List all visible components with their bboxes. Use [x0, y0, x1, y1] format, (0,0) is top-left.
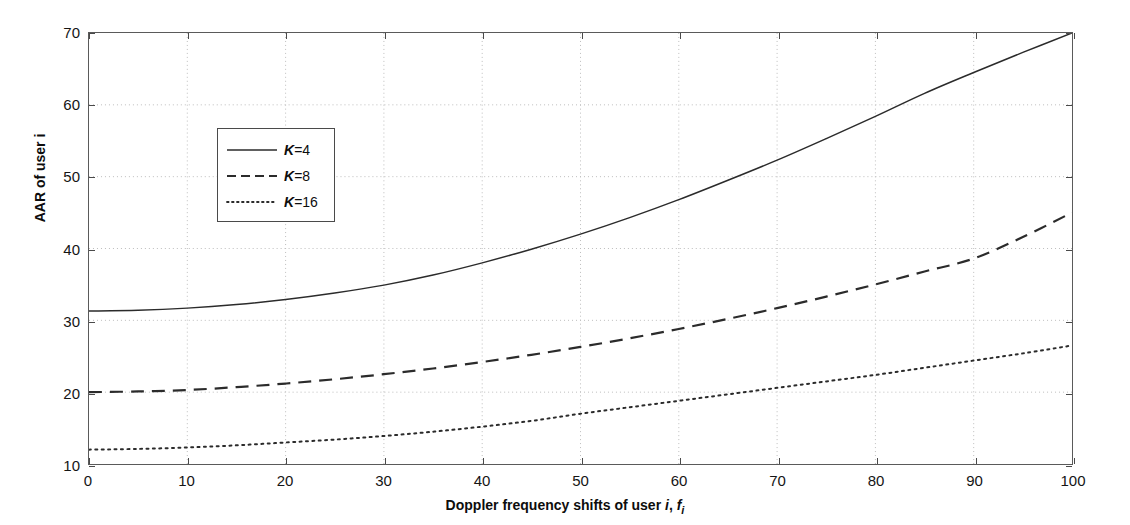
- x-tick-mark: [385, 33, 386, 39]
- legend-k-symbol: K: [284, 142, 294, 158]
- y-tick-mark: [1066, 466, 1072, 467]
- chart-figure: AAR of user i K=4 K=8 K=16: [0, 0, 1130, 525]
- legend-sample-solid-icon: [226, 144, 278, 156]
- x-tick-label: 100: [1060, 472, 1085, 489]
- legend-k4-value: =4: [294, 142, 310, 158]
- y-tick-label: 50: [36, 168, 80, 185]
- legend-item-k4: K=4: [218, 137, 334, 163]
- legend-item-k8: K=8: [218, 163, 334, 189]
- legend-item-k16: K=16: [218, 189, 334, 215]
- legend-sample-dashed-icon: [226, 170, 278, 182]
- x-title-lead: Doppler frequency shifts of user: [446, 497, 665, 513]
- y-tick-mark: [1066, 394, 1072, 395]
- x-tick-mark: [1074, 458, 1075, 464]
- x-tick-mark: [286, 458, 287, 464]
- y-tick-mark: [89, 322, 95, 323]
- x-tick-mark: [779, 33, 780, 39]
- series-lines: [89, 33, 1072, 464]
- y-tick-label: 10: [36, 457, 80, 474]
- y-tick-label: 30: [36, 312, 80, 329]
- legend-k8-value: =8: [294, 168, 310, 184]
- y-tick-mark: [1066, 33, 1072, 34]
- x-tick-label: 60: [671, 472, 688, 489]
- y-tick-mark: [89, 466, 95, 467]
- legend-k16-value: =16: [294, 194, 318, 210]
- x-tick-mark: [582, 458, 583, 464]
- x-tick-mark: [976, 33, 977, 39]
- x-axis-title: Doppler frequency shifts of user i, fi: [0, 497, 1130, 516]
- y-tick-label: 20: [36, 384, 80, 401]
- series-line-k8: [89, 213, 1072, 393]
- chart-legend: K=4 K=8 K=16: [217, 128, 335, 222]
- x-tick-mark: [680, 458, 681, 464]
- y-tick-mark: [89, 33, 95, 34]
- x-tick-label: 70: [769, 472, 786, 489]
- x-tick-mark: [877, 458, 878, 464]
- x-tick-mark: [680, 33, 681, 39]
- x-tick-mark: [1074, 33, 1075, 39]
- y-tick-mark: [89, 394, 95, 395]
- x-tick-mark: [385, 458, 386, 464]
- legend-sample-dotted-icon: [226, 196, 278, 208]
- legend-label-k4: K=4: [284, 142, 310, 158]
- x-tick-mark: [483, 33, 484, 39]
- x-tick-mark: [188, 33, 189, 39]
- legend-label-k16: K=16: [284, 194, 318, 210]
- y-tick-mark: [1066, 322, 1072, 323]
- y-tick-mark: [89, 177, 95, 178]
- legend-k-symbol: K: [284, 168, 294, 184]
- y-tick-mark: [1066, 250, 1072, 251]
- legend-k-symbol: K: [284, 194, 294, 210]
- x-tick-mark: [582, 33, 583, 39]
- y-tick-label: 40: [36, 240, 80, 257]
- x-title-sep: ,: [669, 497, 677, 513]
- y-tick-mark: [89, 105, 95, 106]
- x-tick-label: 40: [474, 472, 491, 489]
- y-tick-mark: [1066, 105, 1072, 106]
- x-tick-mark: [877, 33, 878, 39]
- x-tick-mark: [89, 458, 90, 464]
- legend-label-k8: K=8: [284, 168, 310, 184]
- x-tick-mark: [188, 458, 189, 464]
- x-tick-label: 10: [178, 472, 195, 489]
- series-line-k16: [89, 345, 1072, 449]
- y-tick-label: 60: [36, 96, 80, 113]
- x-tick-label: 50: [572, 472, 589, 489]
- x-tick-mark: [779, 458, 780, 464]
- y-tick-label: 70: [36, 24, 80, 41]
- x-tick-mark: [483, 458, 484, 464]
- y-tick-mark: [1066, 177, 1072, 178]
- x-tick-label: 0: [84, 472, 92, 489]
- y-tick-mark: [89, 250, 95, 251]
- x-tick-label: 20: [277, 472, 294, 489]
- x-title-f-subscript: i: [681, 504, 684, 516]
- plot-area: K=4 K=8 K=16: [88, 32, 1073, 465]
- x-tick-mark: [286, 33, 287, 39]
- x-tick-label: 90: [966, 472, 983, 489]
- x-tick-label: 30: [375, 472, 392, 489]
- x-tick-mark: [976, 458, 977, 464]
- x-tick-label: 80: [868, 472, 885, 489]
